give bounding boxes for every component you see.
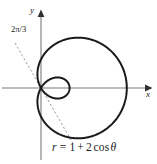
equation-variable-r: r — [52, 141, 57, 153]
x-axis-label: x — [146, 90, 150, 99]
equation-plus: + — [77, 141, 84, 153]
equation-equals: = — [60, 141, 67, 153]
polar-equation-label: r=1+2cosθ — [52, 142, 116, 154]
equation-coefficient-two: 2 — [86, 141, 92, 153]
y-axis-label: y — [30, 6, 34, 15]
equation-cos: cos — [93, 141, 109, 153]
y-axis-arrowhead — [38, 10, 45, 18]
equation-theta: θ — [110, 141, 116, 153]
equation-constant-one: 1 — [69, 141, 75, 153]
angle-ray-label: 2π/3 — [11, 25, 26, 34]
polar-plot-figure: y x 2π/3 r=1+2cosθ — [0, 0, 157, 164]
